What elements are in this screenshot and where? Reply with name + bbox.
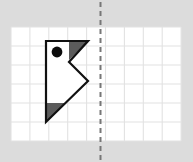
reference-dot — [52, 47, 63, 58]
symmetry-figure — [0, 0, 193, 162]
figure-canvas — [0, 0, 193, 162]
